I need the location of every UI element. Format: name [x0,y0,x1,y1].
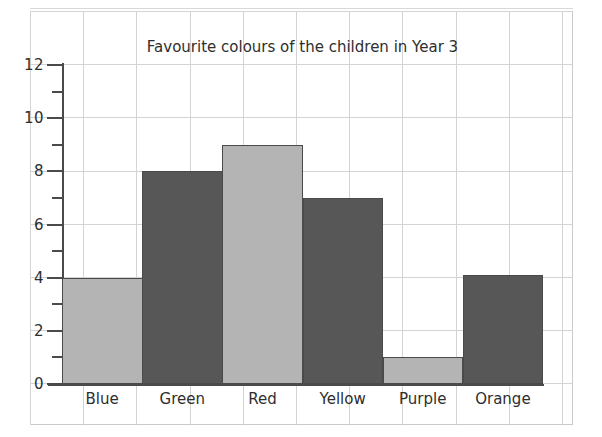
y-axis-tick-major [47,383,63,385]
y-axis-tick-major [47,224,63,226]
y-axis-tick-major [47,64,63,66]
y-axis-tick-major [47,277,63,279]
y-axis-tick-label: 6 [16,216,44,234]
y-axis-tick-major [47,330,63,332]
y-axis-tick-label: 4 [16,269,44,287]
chart-title: Favourite colours of the children in Yea… [62,38,543,56]
x-axis-label-blue: Blue [62,390,142,408]
plot-area [62,65,543,384]
bar-blue [62,278,143,384]
x-axis-label-yellow: Yellow [303,390,383,408]
y-axis-tick-major [47,170,63,172]
bar-red [222,145,303,384]
y-axis-tick-label: 12 [16,56,44,74]
y-axis-tick-label: 2 [16,322,44,340]
chart-page: Favourite colours of the children in Yea… [0,0,602,437]
grid-line-vertical [562,11,563,425]
y-axis-tick-label: 0 [16,375,44,393]
bar-green [142,171,223,384]
x-axis-label-green: Green [142,390,222,408]
bar-orange [463,275,544,384]
y-axis-tick-label: 10 [16,109,44,127]
x-axis-label-orange: Orange [463,390,543,408]
x-axis-label-purple: Purple [383,390,463,408]
grid-line-horizontal [30,11,573,12]
x-axis-label-red: Red [222,390,302,408]
bar-yellow [303,198,384,384]
bar-purple [383,357,464,384]
y-axis-tick-label: 8 [16,162,44,180]
clipped-rule [30,8,573,9]
y-axis-tick-major [47,117,63,119]
x-axis [48,384,544,386]
